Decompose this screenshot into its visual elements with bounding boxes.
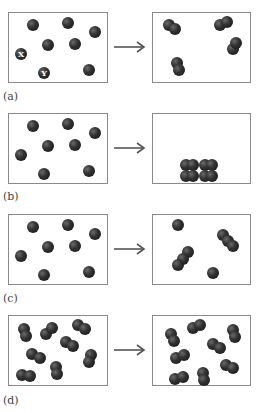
molecule-atom (168, 335, 180, 347)
molecule-atom (83, 356, 95, 368)
atom (83, 64, 95, 76)
molecule-atom (79, 323, 91, 335)
panel-label-a: (a) (3, 90, 18, 103)
atom (42, 241, 54, 253)
molecule-atom (207, 267, 219, 279)
panel-label-d: (d) (3, 394, 19, 407)
reactant-box-b (8, 113, 108, 184)
molecule-atom (214, 342, 226, 354)
product-box-b (152, 113, 251, 184)
atom (15, 149, 27, 161)
molecule-atom (172, 259, 184, 271)
atom (42, 39, 54, 51)
atom (27, 120, 39, 132)
molecule-atom (46, 322, 58, 334)
atom (62, 118, 74, 130)
reactant-box-c (8, 214, 108, 285)
atom (42, 140, 54, 152)
product-box-a (152, 12, 251, 83)
atom-label: Y (38, 67, 50, 79)
atom (89, 228, 101, 240)
product-box-c (152, 214, 251, 285)
atom (38, 168, 50, 180)
molecule-atom (20, 330, 32, 342)
molecule-atom (194, 319, 206, 331)
molecule-atom (178, 349, 190, 361)
atom (89, 127, 101, 139)
reactant-box-d (8, 315, 108, 386)
molecule-atom (173, 64, 185, 76)
atom (62, 219, 74, 231)
atom (27, 19, 39, 31)
atom (62, 17, 74, 29)
molecule-atom (67, 340, 79, 352)
molecule-atom (34, 352, 46, 364)
molecule-atom (24, 370, 36, 382)
atom (69, 38, 81, 50)
atom: Y (38, 67, 50, 79)
arrow-right-icon (114, 243, 146, 255)
atom (15, 250, 27, 262)
reactant-box-a: XY (8, 12, 108, 83)
atom-label: X (15, 48, 27, 60)
molecule-atom (206, 170, 218, 182)
atom (38, 269, 50, 281)
atom (89, 26, 101, 38)
molecule-atom (227, 362, 239, 374)
atom: X (15, 48, 27, 60)
panel-label-c: (c) (3, 292, 18, 305)
molecule-atom (198, 374, 210, 386)
atom (69, 139, 81, 151)
atom (69, 240, 81, 252)
molecule-atom (227, 240, 239, 252)
panel-label-b: (b) (3, 190, 19, 203)
arrow-right-icon (114, 142, 146, 154)
molecule-atom (172, 219, 184, 231)
molecule-atom (230, 37, 242, 49)
arrow-right-icon (114, 344, 146, 356)
molecule-atom (221, 16, 233, 28)
molecule-atom (229, 331, 241, 343)
molecule-atom (187, 170, 199, 182)
atom (83, 266, 95, 278)
atom (27, 221, 39, 233)
molecule-atom (177, 371, 189, 383)
molecule-atom (169, 23, 181, 35)
product-box-d (152, 315, 251, 386)
atom (83, 165, 95, 177)
arrow-right-icon (114, 41, 146, 53)
molecule-atom (51, 368, 63, 380)
